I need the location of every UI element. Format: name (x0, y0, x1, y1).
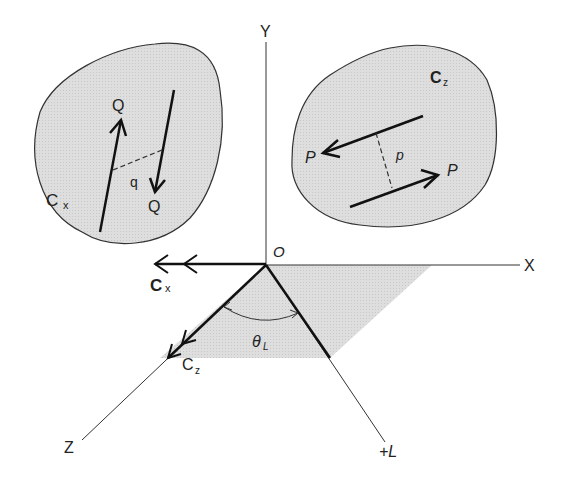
right-body (292, 45, 497, 227)
label-p-left: P (305, 149, 316, 166)
label-p-right: P (447, 162, 458, 179)
label-cx-body: C (46, 191, 58, 210)
label-q-bottom: Q (148, 198, 160, 215)
label-z-axis: Z (64, 439, 74, 456)
label-cz-body-sub: z (443, 77, 448, 88)
label-cz-vector-sub: z (195, 365, 200, 376)
label-theta: θ (252, 333, 261, 350)
label-q-top: Q (112, 97, 124, 114)
diagram-svg: Q Q q C x P P p C z C x C z θ L (0, 0, 563, 477)
shaded-plane (160, 265, 432, 358)
label-y-axis: Y (260, 23, 271, 40)
label-cz-body: C (430, 69, 442, 86)
label-arm-q: q (130, 174, 138, 190)
label-cx-vector: C (150, 276, 162, 295)
left-body (35, 43, 223, 243)
label-cz-vector: C (182, 356, 194, 373)
label-cx-vector-sub: x (165, 282, 171, 294)
label-arm-p: p (395, 147, 404, 163)
label-l-axis: +L (379, 443, 397, 460)
label-cx-body-sub: x (63, 199, 69, 211)
diagram-canvas: Q Q q C x P P p C z C x C z θ L (0, 0, 563, 477)
label-origin: O (273, 243, 285, 260)
label-theta-sub: L (263, 341, 269, 352)
label-x-axis: X (524, 257, 535, 274)
